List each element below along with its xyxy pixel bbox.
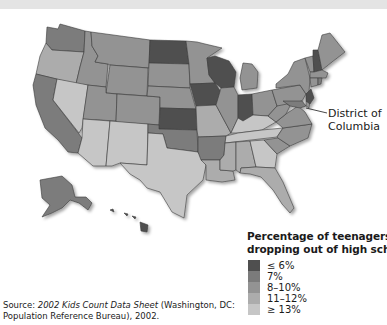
legend-label: 11–12% [267,293,307,304]
state-arkansas [198,136,226,160]
legend-item: ≤ 6% [247,260,387,271]
source-prefix: Source: [3,300,38,310]
state-new-mexico [106,121,148,166]
legend-label: 7% [267,271,283,282]
state-hawaii [110,209,148,232]
legend-title-line2: dropping out of high school [247,243,387,256]
dc-label-line1: District of [328,107,382,120]
state-washington [46,24,85,52]
source-line1: Source: 2002 Kids Count Data Sheet (Wash… [3,300,243,311]
source-line2: Population Reference Bureau), 2002. [3,311,243,322]
legend-item: 7% [247,271,387,282]
legend: Percentage of teenagers dropping out of … [247,230,387,315]
state-iowa [190,83,221,106]
dc-label-line2: Columbia [328,120,382,133]
source-title: 2002 Kids Count Data Sheet [38,300,158,310]
legend-swatch [248,271,260,282]
state-north-dakota [149,40,189,64]
dc-callout-line [306,108,327,113]
source-citation: Source: 2002 Kids Count Data Sheet (Wash… [3,300,243,321]
legend-item: 8–10% [247,282,387,293]
legend-label: ≥ 13% [267,304,301,315]
legend-item: ≥ 13% [247,304,387,315]
legend-swatch [248,304,260,315]
legend-swatch [248,260,260,271]
state-maine [318,33,345,70]
state-michigan [240,63,258,90]
dc-callout-label: District of Columbia [328,107,382,133]
state-south-dakota [148,63,190,88]
state-montana [91,32,150,68]
legend-label: ≤ 6% [267,260,294,271]
state-florida [240,167,294,213]
legend-title-line1: Percentage of teenagers [247,230,387,243]
state-wyoming [106,65,148,96]
legend-swatch [248,293,260,304]
state-rhode-island [318,78,322,85]
legend-item: 11–12% [247,293,387,304]
state-connecticut [310,78,318,87]
state-colorado [116,94,160,125]
state-alaska [40,176,92,217]
state-kansas [159,108,197,130]
legend-items: ≤ 6% 7% 8–10% 11–12% ≥ 13% [247,260,387,315]
legend-swatch [248,282,260,293]
source-suffix: (Washington, DC: [158,300,235,310]
legend-label: 8–10% [267,282,301,293]
state-arizona [78,119,110,166]
